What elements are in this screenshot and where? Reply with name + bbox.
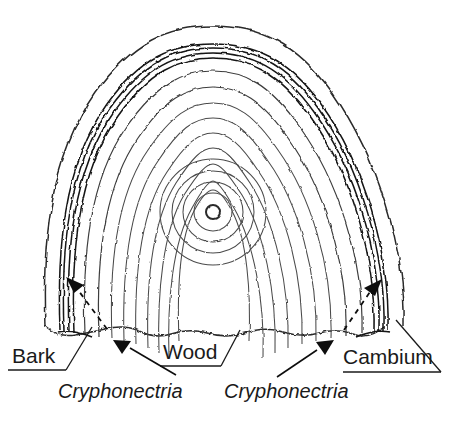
growth-ring-3: [172, 171, 254, 253]
bottom-scalloped-edge-group: [45, 326, 384, 336]
pith-center: [206, 205, 220, 219]
tree-cross-section-svg: Bark Wood Cambium Cryphonectria Cryphone…: [0, 0, 456, 423]
infection-spread-left-arrow: [66, 277, 107, 329]
growth-ring-2: [183, 182, 243, 242]
bottom-edge: [45, 326, 384, 336]
growth-rings-group-inner: [111, 103, 331, 358]
cryphonectria-right-label: Cryphonectria: [224, 380, 349, 402]
bark-label: Bark: [12, 344, 56, 367]
growth-ring-1: [194, 193, 232, 231]
cambium-callout: Cambium: [343, 320, 441, 372]
cryphonectria-right-arrow-head: [316, 340, 334, 355]
dashed-arrow-right-head: [364, 279, 382, 296]
cambium-line-3: [68, 53, 379, 332]
dashed-arrow-left-shaft: [78, 290, 107, 329]
dashed-arrow-right-shaft: [344, 292, 370, 330]
cryphonectria-left-label: Cryphonectria: [58, 380, 183, 402]
wood-label: Wood: [163, 340, 217, 363]
diagram-canvas: Bark Wood Cambium Cryphonectria Cryphone…: [0, 0, 456, 423]
cryphonectria-right-arrow-shaft: [277, 350, 317, 377]
growth-ring-9: [136, 133, 303, 344]
cambium-line-1: [59, 44, 388, 330]
cambium-label: Cambium: [343, 345, 433, 368]
infection-spread-right-arrow: [344, 279, 382, 330]
cryphonectria-left-arrow-head: [113, 340, 131, 354]
cryphonectria-right-callout: Cryphonectria: [224, 340, 349, 402]
growth-ring-7: [159, 164, 276, 353]
